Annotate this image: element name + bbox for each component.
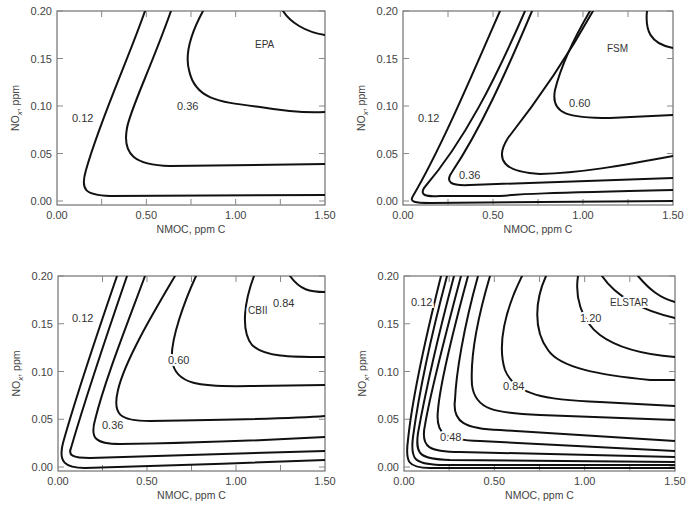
x-tick-label: 1.00: [574, 475, 595, 487]
x-tick-label: 0.00: [46, 209, 67, 221]
y-tick-label: 0.00: [31, 195, 52, 207]
panel-fsm: 0.000.501.001.500.000.050.100.150.20NMOC…: [355, 5, 684, 235]
x-axis-label: NMOC, ppm C: [505, 489, 574, 501]
model-label: CBII: [248, 305, 267, 316]
y-tick-label: 0.20: [378, 270, 399, 282]
x-tick-label: 1.50: [314, 475, 335, 487]
y-tick-label: 0.20: [377, 5, 398, 17]
y-tick-label: 0.00: [32, 461, 53, 473]
contour-label: 0.36: [102, 419, 123, 431]
contour-lines: [84, 11, 325, 196]
ozone-isopleth-figure: 0.000.501.001.500.000.050.100.150.20NMOC…: [0, 0, 691, 513]
panel-elstar: 0.000.501.001.500.000.050.100.150.20NMOC…: [356, 270, 686, 501]
contour-label: 0.12: [72, 312, 93, 324]
y-tick-label: 0.05: [32, 413, 53, 425]
y-axis-label: NOx, ppm: [355, 85, 370, 131]
x-axis-label: NMOC, ppm C: [504, 223, 573, 235]
x-tick-label: 0.50: [136, 475, 157, 487]
contour-label: 0.36: [177, 100, 198, 112]
x-axis-label: NMOC, ppm C: [157, 223, 226, 235]
x-tick-label: 1.00: [572, 209, 593, 221]
contour-line: [283, 11, 325, 35]
contour-label: 0.48: [440, 431, 461, 443]
y-axis-label: NOx, ppm: [356, 350, 371, 396]
y-tick-label: 0.10: [377, 100, 398, 112]
y-tick-label: 0.05: [377, 148, 398, 160]
x-tick-label: 0.50: [484, 475, 505, 487]
x-tick-label: 1.00: [225, 475, 246, 487]
x-tick-label: 1.50: [664, 475, 685, 487]
contour-label: 0.84: [273, 297, 294, 309]
contour-label: 0.12: [411, 296, 432, 308]
contour-label: 1.20: [580, 312, 601, 324]
contour-lines: [412, 11, 673, 203]
y-tick-label: 0.10: [31, 100, 52, 112]
contour-line: [502, 276, 675, 406]
x-tick-label: 1.00: [225, 209, 246, 221]
y-tick-label: 0.20: [32, 270, 53, 282]
x-tick-label: 1.50: [314, 209, 335, 221]
y-tick-label: 0.05: [378, 413, 399, 425]
contour-line: [188, 11, 325, 112]
x-tick-label: 0.50: [136, 209, 157, 221]
y-tick-label: 0.15: [377, 53, 398, 65]
contour-line: [502, 11, 673, 174]
contour-line: [290, 276, 325, 292]
model-label: FSM: [607, 43, 628, 54]
y-axis-label: NOx, ppm: [10, 350, 25, 396]
y-tick-label: 0.05: [31, 148, 52, 160]
x-tick-label: 1.50: [662, 209, 683, 221]
x-tick-label: 0.50: [482, 209, 503, 221]
model-label: EPA: [255, 39, 275, 50]
panel-cbii: 0.000.501.001.500.000.050.100.150.20NMOC…: [10, 270, 336, 501]
y-tick-label: 0.10: [378, 366, 399, 378]
contour-line: [126, 11, 325, 166]
y-tick-label: 0.00: [377, 195, 398, 207]
panel-epa: 0.000.501.001.500.000.050.100.150.20NMOC…: [9, 5, 336, 235]
x-axis-label: NMOC, ppm C: [157, 489, 226, 501]
model-label: ELSTAR: [610, 297, 648, 308]
y-axis-label: NOx, ppm: [9, 85, 24, 131]
contour-label: 0.36: [459, 169, 480, 181]
contour-line: [84, 11, 325, 196]
y-tick-label: 0.15: [378, 318, 399, 330]
y-tick-label: 0.00: [378, 461, 399, 473]
y-tick-label: 0.15: [32, 318, 53, 330]
x-tick-label: 0.00: [47, 475, 68, 487]
contour-line: [245, 276, 325, 357]
contour-line: [647, 11, 673, 48]
x-tick-label: 0.00: [393, 475, 414, 487]
y-tick-label: 0.10: [32, 366, 53, 378]
x-tick-label: 0.00: [392, 209, 413, 221]
contour-label: 0.60: [168, 354, 189, 366]
y-tick-label: 0.15: [31, 53, 52, 65]
contour-label: 0.12: [418, 112, 439, 124]
contour-label: 0.84: [503, 380, 524, 392]
contour-label: 0.60: [569, 97, 590, 109]
contour-label: 0.12: [72, 112, 93, 124]
plot-frame: [403, 11, 673, 205]
y-tick-label: 0.20: [31, 5, 52, 17]
